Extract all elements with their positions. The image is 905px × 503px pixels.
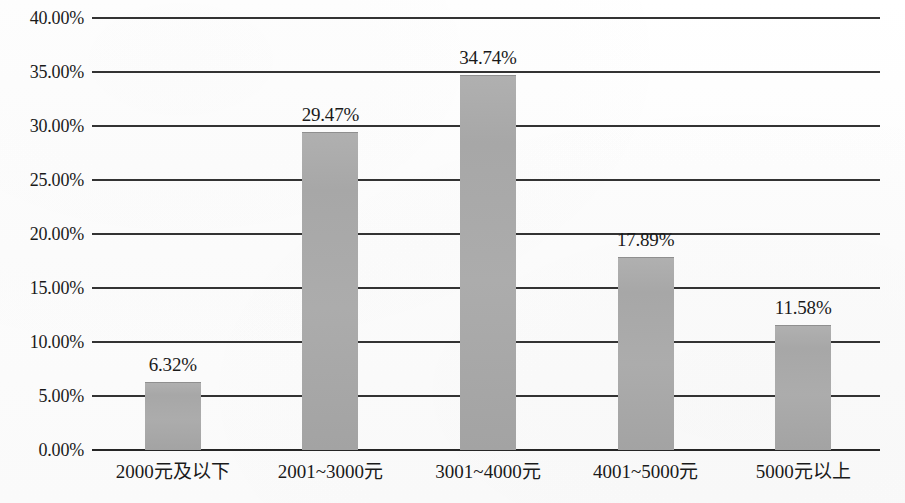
y-axis-tick-label: 15.00%: [0, 279, 84, 297]
y-axis-tick-label: 5.00%: [0, 387, 84, 405]
x-axis-category-label: 3001~4000元: [435, 462, 540, 483]
bar: [302, 132, 358, 450]
y-axis-tick-label: 40.00%: [0, 9, 84, 27]
y-axis-tick-label: 35.00%: [0, 63, 84, 81]
x-axis-category-label: 5000元以上: [756, 462, 851, 483]
y-axis-tick-label: 30.00%: [0, 117, 84, 135]
x-axis-category-label: 4001~5000元: [593, 462, 698, 483]
bar-value-label: 17.89%: [617, 230, 674, 249]
y-axis-tick-label: 25.00%: [0, 171, 84, 189]
bar-value-label: 29.47%: [302, 105, 359, 124]
bar-value-label: 6.32%: [149, 355, 197, 374]
bar: [460, 75, 516, 450]
gridline: [92, 17, 880, 19]
gridline: [92, 71, 880, 73]
x-axis-category-label: 2000元及以下: [116, 462, 230, 483]
bar: [618, 257, 674, 450]
bar-value-label: 11.58%: [775, 298, 832, 317]
bar-chart: 0.00%5.00%10.00%15.00%20.00%25.00%30.00%…: [0, 0, 905, 503]
bar: [145, 382, 201, 450]
y-axis-tick-label: 20.00%: [0, 225, 84, 243]
bar-value-label: 34.74%: [459, 48, 516, 67]
bar: [775, 325, 831, 450]
y-axis-tick-label: 10.00%: [0, 333, 84, 351]
y-axis-tick-label: 0.00%: [0, 441, 84, 459]
x-axis-category-label: 2001~3000元: [278, 462, 383, 483]
plot-area: [92, 18, 880, 450]
